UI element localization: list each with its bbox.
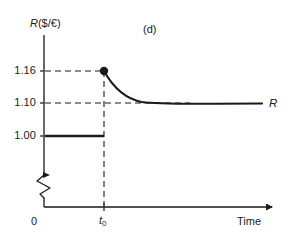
exchange-rate-figure: R($/€) (d) 1.16 1.10 1.00 R 0 t0 Time: [0, 0, 290, 240]
y-tick-label-110: 1.10: [0, 97, 36, 108]
y-axis-title-units: ($/€): [38, 17, 61, 29]
x-tick-label-t0: t0: [99, 215, 107, 226]
x-axis-label: Time: [237, 216, 261, 227]
y-axis-break-zigzag: [37, 175, 50, 198]
y-tick-label-100: 1.00: [0, 130, 36, 141]
plot-canvas: [0, 0, 290, 240]
x-tick-label-t0-subscript: 0: [102, 219, 106, 228]
origin-label: 0: [31, 216, 37, 227]
y-axis-title-symbol: R: [30, 17, 38, 29]
y-tick-label-116: 1.16: [0, 65, 36, 76]
panel-label: (d): [143, 24, 156, 35]
y-axis-title: R($/€): [30, 18, 61, 29]
series-decay-curve: [104, 71, 262, 104]
data-point-jump: [100, 67, 108, 75]
series-label-r: R: [269, 98, 277, 110]
